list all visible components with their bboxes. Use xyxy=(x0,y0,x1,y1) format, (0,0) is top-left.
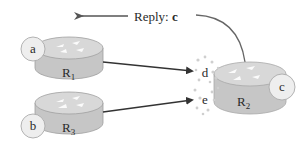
router-r3: R3 xyxy=(35,92,103,137)
link-r3-to-e xyxy=(103,100,192,112)
host-b-label: b xyxy=(30,118,37,133)
router-r1: R1 xyxy=(35,37,103,82)
host-a-label: a xyxy=(30,41,36,56)
port-e-label: e xyxy=(202,92,208,107)
host-c: c xyxy=(269,74,295,100)
host-b: b xyxy=(21,114,45,138)
reply-curve xyxy=(196,15,245,62)
port-d-label: d xyxy=(202,65,209,80)
link-r1-to-d xyxy=(103,62,192,71)
host-a: a xyxy=(21,37,45,61)
reply-label: Reply: c xyxy=(134,9,178,24)
network-diagram: Reply: c R1 a R3 xyxy=(0,0,307,151)
host-c-label: c xyxy=(279,79,285,94)
